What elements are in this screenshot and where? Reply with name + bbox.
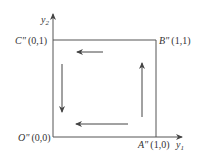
y-axis-label: y2 (40, 14, 49, 27)
point-o-label: O"(0,0) (18, 132, 51, 144)
diagram-svg: y2 y1 C"(0,1) B"(1,1) O"(0,0) A"(1,0) (0, 0, 202, 158)
point-a-label: A"(1,0) (137, 139, 169, 151)
point-b-label: B"(1,1) (159, 35, 190, 47)
x-axis-label: y1 (175, 139, 184, 152)
point-c-label: C"(0,1) (15, 35, 47, 47)
diagram-canvas: y2 y1 C"(0,1) B"(1,1) O"(0,0) A"(1,0) (0, 0, 202, 158)
